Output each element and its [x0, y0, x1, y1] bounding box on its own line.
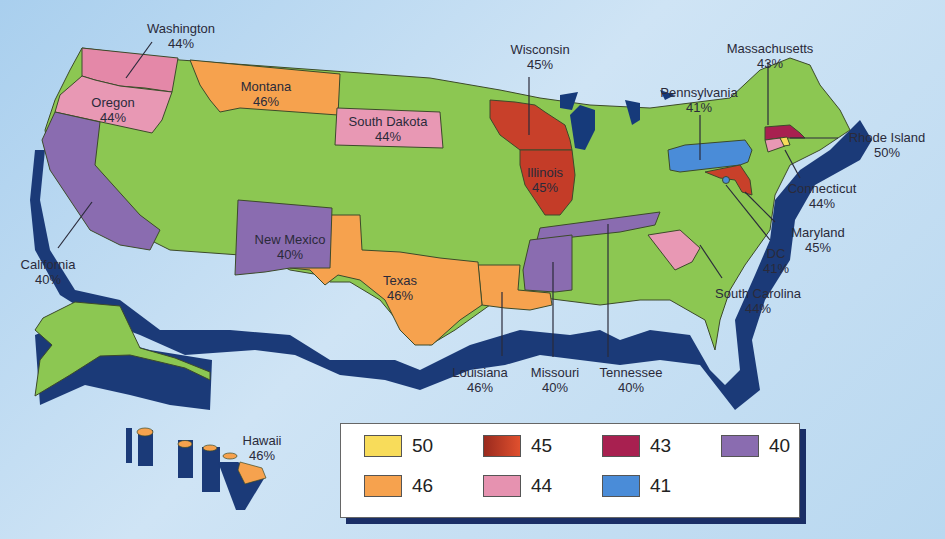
label-south-dakota: South Dakota44%	[349, 114, 428, 144]
legend-value: 44	[531, 475, 552, 497]
legend-value: 41	[650, 475, 671, 497]
label-dc: DC41%	[763, 246, 789, 276]
state-dc	[723, 177, 730, 184]
label-louisiana: Louisiana46%	[452, 365, 508, 395]
legend-value: 43	[650, 435, 671, 457]
legend-value: 50	[412, 435, 433, 457]
legend-swatch	[602, 475, 640, 497]
legend-swatch	[364, 475, 402, 497]
legend-item-40: 40	[721, 435, 790, 457]
label-hawaii: Hawaii46%	[242, 433, 281, 463]
legend-item-41: 41	[602, 475, 671, 497]
label-pennsylvania: Pennsylvania41%	[660, 85, 737, 115]
label-montana: Montana46%	[241, 79, 292, 109]
label-oregon: Oregon44%	[91, 95, 134, 125]
label-maryland: Maryland45%	[791, 225, 844, 255]
legend-swatch	[483, 475, 521, 497]
legend-item-46: 46	[364, 475, 433, 497]
label-wisconsin: Wisconsin45%	[510, 42, 569, 72]
label-south-carolina: South Carolina44%	[715, 286, 801, 316]
legend-value: 46	[412, 475, 433, 497]
label-california: California40%	[21, 257, 76, 287]
legend-swatch	[602, 435, 640, 457]
legend-item-43: 43	[602, 435, 671, 457]
state-missouri-labeled	[523, 235, 572, 292]
label-missouri: Missouri40%	[531, 365, 579, 395]
label-illinois: Illinois45%	[527, 165, 563, 195]
legend-swatch	[721, 435, 759, 457]
label-massachusetts: Massachusetts43%	[727, 41, 814, 71]
legend-value: 40	[769, 435, 790, 457]
label-tennessee: Tennessee40%	[600, 365, 663, 395]
legend-item-50: 50	[364, 435, 433, 457]
legend-item-44: 44	[483, 475, 552, 497]
label-texas: Texas46%	[383, 273, 417, 303]
legend-swatch	[483, 435, 521, 457]
label-rhode-island: Rhode Island50%	[849, 130, 926, 160]
label-connecticut: Connecticut44%	[788, 181, 857, 211]
label-new-mexico: New Mexico40%	[255, 232, 326, 262]
legend: 50 45 43 40 46 44 41	[340, 423, 800, 518]
label-washington: Washington44%	[147, 21, 215, 51]
legend-value: 45	[531, 435, 552, 457]
legend-swatch	[364, 435, 402, 457]
legend-item-45: 45	[483, 435, 552, 457]
